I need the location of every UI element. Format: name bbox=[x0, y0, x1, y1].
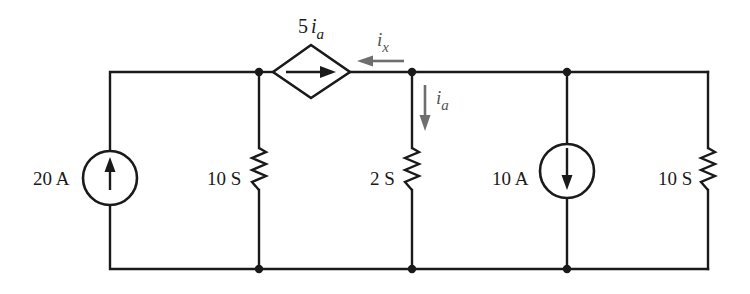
node-top-1 bbox=[255, 68, 263, 76]
dependent-coef: 5 bbox=[298, 15, 308, 37]
resistor-10s-right bbox=[701, 148, 715, 190]
label-ix: ix bbox=[377, 30, 389, 49]
label-2s: 2 S bbox=[370, 169, 395, 188]
current-ix-arrow bbox=[357, 56, 404, 67]
resistor-10s-left bbox=[252, 148, 266, 190]
dependent-sub: a bbox=[317, 26, 325, 42]
label-10a: 10 A bbox=[492, 169, 528, 188]
node-top-3 bbox=[563, 68, 571, 76]
label-10s-left: 10 S bbox=[207, 169, 241, 188]
label-dependent-source: 5ia bbox=[298, 16, 324, 36]
node-bottom-3 bbox=[563, 265, 571, 273]
node-top-2 bbox=[408, 68, 416, 76]
dependent-var: i bbox=[311, 15, 317, 37]
wire-left-bottom bbox=[110, 198, 259, 269]
wire-left-top bbox=[110, 72, 259, 158]
resistor-2s bbox=[405, 148, 419, 190]
label-20a: 20 A bbox=[33, 169, 69, 188]
ia-sub: a bbox=[441, 97, 449, 113]
ix-sub: x bbox=[382, 39, 389, 55]
circuit-diagram bbox=[0, 0, 750, 294]
node-bottom-2 bbox=[408, 265, 416, 273]
current-ia-arrow bbox=[420, 85, 431, 131]
dependent-current-source bbox=[273, 45, 350, 98]
label-10s-right: 10 S bbox=[658, 169, 692, 188]
label-ia: ia bbox=[436, 88, 449, 107]
current-source-20a bbox=[83, 151, 137, 205]
node-bottom-1 bbox=[255, 265, 263, 273]
current-source-10a bbox=[540, 144, 594, 198]
